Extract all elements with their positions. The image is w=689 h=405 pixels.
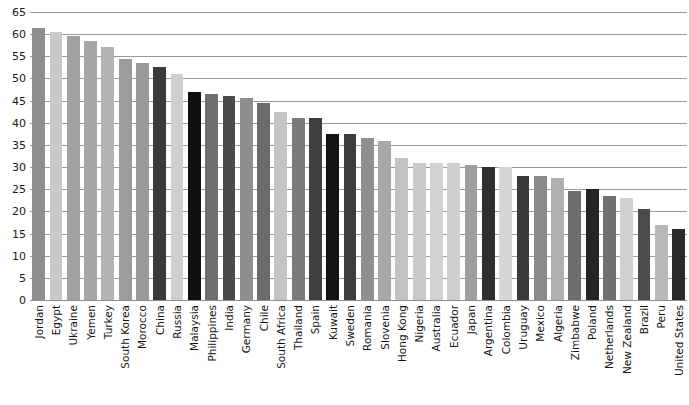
bar-peru[interactable] (655, 225, 668, 300)
y-tick-label-50: 50 (0, 73, 26, 84)
bar-slot (566, 12, 583, 300)
bar-slot (307, 12, 324, 300)
x-tick-label-chile: Chile (258, 305, 269, 331)
bar-south-africa[interactable] (274, 112, 287, 300)
x-tick-label-romania: Romania (362, 305, 373, 351)
bar-slot (238, 12, 255, 300)
x-label-slot: Malaysia (186, 303, 203, 403)
bar-romania[interactable] (361, 138, 374, 300)
x-label-slot: Australia (428, 303, 445, 403)
x-tick-label-colombia: Colombia (500, 305, 511, 354)
bar-uruguay[interactable] (517, 176, 530, 300)
bar-japan[interactable] (465, 165, 478, 300)
bar-hong-kong[interactable] (395, 158, 408, 300)
x-label-slot: Philippines (203, 303, 220, 403)
bar-slot (359, 12, 376, 300)
x-label-slot: Algeria (549, 303, 566, 403)
x-label-slot: Russia (168, 303, 185, 403)
x-tick-label-peru: Peru (656, 305, 667, 328)
x-tick-label-hong-kong: Hong Kong (397, 305, 408, 362)
bar-slot (532, 12, 549, 300)
x-label-slot: India (220, 303, 237, 403)
bar-spain[interactable] (309, 118, 322, 300)
bar-morocco[interactable] (136, 63, 149, 300)
bar-netherlands[interactable] (603, 196, 616, 300)
bar-slot (168, 12, 185, 300)
bar-kuwait[interactable] (326, 134, 339, 300)
bar-mexico[interactable] (534, 176, 547, 300)
y-tick-label-60: 60 (0, 29, 26, 40)
bar-jordan[interactable] (32, 28, 45, 300)
bar-germany[interactable] (240, 98, 253, 300)
bar-slovenia[interactable] (378, 141, 391, 301)
bar-chile[interactable] (257, 103, 270, 300)
x-label-slot: China (151, 303, 168, 403)
x-tick-label-mexico: Mexico (535, 305, 546, 342)
bar-thailand[interactable] (292, 118, 305, 300)
bar-united-states[interactable] (672, 229, 685, 300)
bar-colombia[interactable] (499, 167, 512, 300)
bar-russia[interactable] (171, 74, 184, 300)
x-label-slot: New Zealand (618, 303, 635, 403)
x-label-slot: Egypt (47, 303, 64, 403)
x-label-slot: Colombia (497, 303, 514, 403)
bar-chart: 05101520253035404550556065 JordanEgyptUk… (0, 0, 689, 405)
bar-ecuador[interactable] (447, 163, 460, 300)
bar-slot (47, 12, 64, 300)
bar-nigeria[interactable] (413, 163, 426, 300)
x-label-slot: Ukraine (65, 303, 82, 403)
x-tick-label-turkey: Turkey (103, 305, 114, 339)
bar-new-zealand[interactable] (620, 198, 633, 300)
bar-zimbabwe[interactable] (568, 191, 581, 300)
bar-slot (376, 12, 393, 300)
y-tick-label-55: 55 (0, 51, 26, 62)
x-label-slot: Slovenia (376, 303, 393, 403)
x-tick-label-kuwait: Kuwait (327, 305, 338, 340)
bar-algeria[interactable] (551, 178, 564, 300)
x-label-slot: Zimbabwe (566, 303, 583, 403)
x-tick-label-australia: Australia (431, 305, 442, 351)
x-label-slot: Spain (307, 303, 324, 403)
bar-slot (497, 12, 514, 300)
bar-slot (601, 12, 618, 300)
bar-malaysia[interactable] (188, 92, 201, 300)
x-tick-label-brazil: Brazil (639, 305, 650, 334)
bar-slot (134, 12, 151, 300)
bar-slot (584, 12, 601, 300)
x-tick-label-egypt: Egypt (51, 305, 62, 335)
x-tick-label-south-korea: South Korea (120, 305, 131, 369)
bar-sweden[interactable] (344, 134, 357, 300)
x-tick-label-malaysia: Malaysia (189, 305, 200, 351)
bar-slot (203, 12, 220, 300)
x-label-slot: United States (670, 303, 687, 403)
x-tick-label-netherlands: Netherlands (604, 305, 615, 369)
bar-slot (255, 12, 272, 300)
x-label-slot: Argentina (480, 303, 497, 403)
bar-yemen[interactable] (84, 41, 97, 300)
bar-argentina[interactable] (482, 167, 495, 300)
bar-south-korea[interactable] (119, 59, 132, 300)
x-label-slot: Kuwait (324, 303, 341, 403)
bar-china[interactable] (153, 67, 166, 300)
bar-slot (445, 12, 462, 300)
bar-turkey[interactable] (101, 47, 114, 300)
bar-brazil[interactable] (638, 209, 651, 300)
y-tick-label-25: 25 (0, 184, 26, 195)
bar-ukraine[interactable] (67, 36, 80, 300)
x-tick-label-argentina: Argentina (483, 305, 494, 356)
x-tick-label-slovenia: Slovenia (379, 305, 390, 350)
x-label-slot: Turkey (99, 303, 116, 403)
x-tick-label-algeria: Algeria (552, 305, 563, 342)
x-tick-label-india: India (224, 305, 235, 331)
bar-slot (151, 12, 168, 300)
x-label-slot: South Korea (116, 303, 133, 403)
gridline-0 (30, 300, 687, 301)
bar-egypt[interactable] (50, 32, 63, 300)
x-label-slot: Romania (359, 303, 376, 403)
x-label-slot: Nigeria (411, 303, 428, 403)
bar-philippines[interactable] (205, 94, 218, 300)
bar-poland[interactable] (586, 189, 599, 300)
bar-australia[interactable] (430, 163, 443, 300)
x-tick-label-uruguay: Uruguay (518, 305, 529, 350)
bar-india[interactable] (223, 96, 236, 300)
